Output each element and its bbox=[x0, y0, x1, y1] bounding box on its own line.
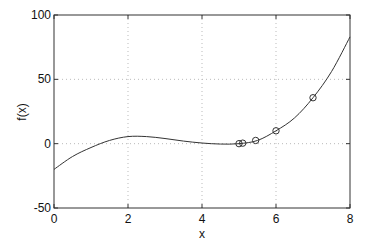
x-tick-label: 8 bbox=[347, 212, 354, 226]
x-tick-label: 6 bbox=[273, 212, 280, 226]
y-tick-label: 0 bbox=[44, 137, 51, 151]
y-tick-label: 50 bbox=[38, 72, 52, 86]
chart: 02468-50050100 x f(x) bbox=[0, 0, 366, 246]
x-tick-label: 0 bbox=[51, 212, 58, 226]
x-tick-label: 2 bbox=[125, 212, 132, 226]
x-tick-label: 4 bbox=[199, 212, 206, 226]
y-tick-label: 100 bbox=[31, 8, 51, 22]
axis-ticks: 02468-50050100 bbox=[31, 8, 354, 226]
x-axis-label: x bbox=[199, 227, 205, 241]
y-tick-label: -50 bbox=[34, 201, 52, 215]
grid-lines bbox=[54, 15, 350, 208]
y-axis-label: f(x) bbox=[15, 103, 29, 120]
